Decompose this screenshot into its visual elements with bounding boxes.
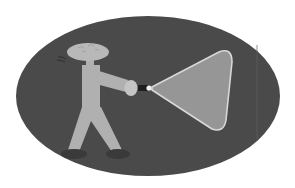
flashlight-bulb-icon	[146, 85, 151, 90]
oval-background	[16, 16, 280, 176]
right-shoe	[106, 149, 130, 159]
left-shoe	[61, 149, 87, 159]
figure-hand	[125, 80, 138, 96]
flashlight-illustration	[0, 0, 295, 188]
